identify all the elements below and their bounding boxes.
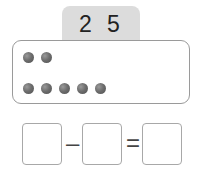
answer-box-3[interactable] [142,123,182,165]
dot-icon [23,83,34,94]
dot-icon [41,83,52,94]
dot-icon [23,52,34,63]
minus-sign: – [66,126,79,160]
tab-digit-first: 2 [79,12,92,36]
dot-icon [95,83,106,94]
number-tab: 2 5 [62,6,140,44]
dot-icon [41,52,52,63]
equals-sign: = [126,126,140,160]
dot-icon [59,83,70,94]
dot-panel [12,40,190,104]
answer-box-1[interactable] [22,123,62,165]
answer-box-2[interactable] [82,123,122,165]
tab-digit-second: 5 [107,12,120,36]
dot-icon [77,83,88,94]
